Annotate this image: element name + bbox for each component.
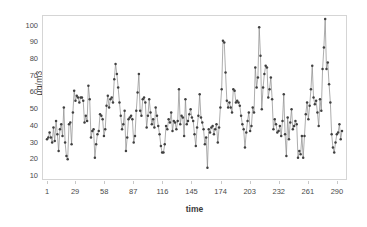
data-point xyxy=(60,123,63,126)
x-tick-label: 58 xyxy=(89,188,119,196)
plot-area xyxy=(42,15,347,180)
data-point xyxy=(59,128,62,131)
data-point xyxy=(275,123,278,126)
data-point xyxy=(255,86,257,89)
data-point xyxy=(149,111,152,114)
data-point xyxy=(169,121,172,124)
data-point xyxy=(64,141,67,144)
chart-figure: µg/m3 102030405060708090100 129588711614… xyxy=(0,0,367,227)
data-point xyxy=(280,135,283,138)
data-point xyxy=(315,100,318,103)
data-point xyxy=(140,115,143,118)
data-point xyxy=(178,88,181,91)
data-point xyxy=(77,96,80,99)
data-point xyxy=(57,150,60,153)
data-point xyxy=(95,143,98,146)
data-point xyxy=(217,141,220,144)
data-point xyxy=(273,118,276,121)
data-point xyxy=(82,100,85,103)
data-point xyxy=(205,136,208,139)
data-point xyxy=(47,136,50,139)
data-point xyxy=(261,108,264,111)
data-point xyxy=(136,91,139,94)
data-point xyxy=(174,121,177,124)
data-point xyxy=(87,85,90,88)
data-point xyxy=(267,96,270,99)
data-point xyxy=(145,126,148,129)
data-point xyxy=(135,110,138,113)
data-point xyxy=(112,101,115,104)
data-point xyxy=(185,123,188,126)
x-tick-mark xyxy=(337,181,338,184)
data-point xyxy=(187,120,190,123)
data-point xyxy=(184,98,187,101)
data-point xyxy=(290,108,293,111)
data-point xyxy=(152,118,155,121)
data-point xyxy=(281,120,284,123)
data-point xyxy=(131,118,134,121)
data-point xyxy=(204,143,207,146)
data-point xyxy=(65,155,68,158)
x-tick-label: 203 xyxy=(235,188,265,196)
data-point xyxy=(166,128,169,131)
data-point xyxy=(224,71,227,74)
data-point xyxy=(114,63,117,66)
data-point xyxy=(248,111,251,114)
data-point xyxy=(154,106,157,109)
data-point xyxy=(48,131,51,134)
data-point xyxy=(263,73,266,76)
data-point xyxy=(270,76,273,79)
x-tick-label: 290 xyxy=(322,188,352,196)
data-point xyxy=(207,128,210,131)
data-point xyxy=(107,95,110,98)
data-point xyxy=(167,118,170,121)
data-point xyxy=(337,131,340,134)
data-point xyxy=(113,78,116,81)
data-point xyxy=(249,130,252,133)
data-point xyxy=(151,123,154,126)
data-point xyxy=(327,61,330,64)
data-point xyxy=(158,133,161,136)
data-point xyxy=(288,138,291,141)
x-tick-label: 174 xyxy=(206,188,236,196)
y-tick-label: 50 xyxy=(14,105,38,113)
data-point xyxy=(312,96,315,99)
data-point xyxy=(229,106,232,109)
x-tick-label: 145 xyxy=(176,188,206,196)
data-point xyxy=(105,105,108,108)
data-point xyxy=(162,151,165,154)
data-point xyxy=(226,100,229,103)
data-point xyxy=(132,141,135,144)
data-point xyxy=(284,133,287,136)
data-point xyxy=(311,65,314,68)
data-point xyxy=(223,41,226,44)
y-tick-label: 90 xyxy=(14,38,38,46)
data-point xyxy=(258,26,261,29)
y-tick-label: 70 xyxy=(14,72,38,80)
data-point xyxy=(259,54,262,57)
data-point xyxy=(266,66,269,69)
data-point xyxy=(126,136,129,139)
data-point xyxy=(338,123,341,126)
data-point xyxy=(78,101,81,104)
data-point xyxy=(254,66,257,69)
data-point xyxy=(61,135,64,138)
data-point xyxy=(214,128,217,131)
data-point xyxy=(183,135,186,138)
data-point xyxy=(96,133,99,136)
data-point xyxy=(285,155,288,158)
data-point xyxy=(195,145,198,148)
data-point xyxy=(73,90,76,93)
y-tick-label: 30 xyxy=(14,139,38,147)
data-point xyxy=(245,131,248,134)
data-point xyxy=(325,68,328,71)
data-point xyxy=(52,126,55,129)
data-point xyxy=(237,101,240,104)
data-point xyxy=(66,158,69,161)
data-point xyxy=(123,110,126,113)
data-point xyxy=(231,111,234,114)
x-tick-label: 87 xyxy=(118,188,148,196)
data-point xyxy=(314,103,317,106)
data-point xyxy=(262,86,265,89)
data-point xyxy=(85,115,88,118)
